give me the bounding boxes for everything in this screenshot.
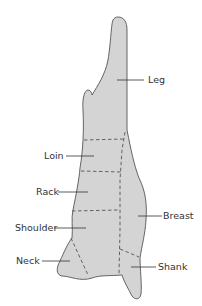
label-neck: Neck [16,256,40,266]
label-shank: Shank [158,262,187,272]
label-rack: Rack [36,187,59,197]
label-loin: Loin [44,151,64,161]
label-leg: Leg [148,75,165,85]
label-shoulder: Shoulder [15,223,57,233]
label-breast: Breast [163,211,194,221]
carcass-outline [57,17,146,299]
